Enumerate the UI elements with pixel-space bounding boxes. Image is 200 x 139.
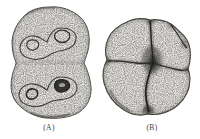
figure-a bbox=[11, 7, 91, 119]
figure-panel: (A) (B) bbox=[0, 0, 200, 139]
figure-a-label: (A) bbox=[43, 123, 55, 132]
figure-a-blotch-texture bbox=[11, 7, 91, 119]
figure-b-blotch-texture bbox=[103, 19, 190, 115]
figure-b-label: (B) bbox=[146, 123, 157, 132]
figure-b bbox=[103, 18, 191, 115]
illustration-canvas: (A) (B) bbox=[0, 0, 200, 139]
